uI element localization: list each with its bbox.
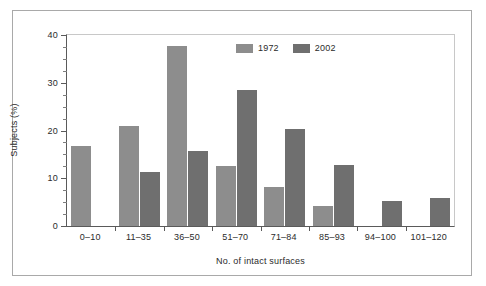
y-axis-tick-label: 20 — [47, 126, 58, 136]
legend-item-2002[interactable]: 2002 — [293, 43, 336, 53]
y-axis-tick-minor — [63, 154, 67, 155]
legend-label-1972: 1972 — [258, 43, 279, 53]
x-axis-category-label: 85–93 — [319, 232, 345, 242]
y-axis-tick-label: 30 — [47, 78, 58, 88]
bar-2002-11-35[interactable] — [140, 172, 160, 226]
legend-swatch-1972 — [236, 44, 253, 53]
y-axis-tick-label: 40 — [47, 30, 58, 40]
x-axis-tick — [212, 226, 213, 231]
bar-2002-94-100[interactable] — [382, 201, 402, 226]
legend-item-1972[interactable]: 1972 — [236, 43, 279, 53]
y-axis-tick-minor — [63, 47, 67, 48]
x-axis-tick — [261, 226, 262, 231]
y-axis-tick-major — [61, 35, 67, 36]
x-axis-tick — [309, 226, 310, 231]
x-axis-tick — [357, 226, 358, 231]
bar-2002-51-70[interactable] — [237, 90, 257, 226]
y-axis-tick-minor — [63, 190, 67, 191]
x-axis-title: No. of intact surfaces — [66, 256, 455, 266]
x-axis-tick — [115, 226, 116, 231]
y-axis-tick-major — [61, 226, 67, 227]
x-axis-category-label: 36–50 — [174, 232, 200, 242]
y-axis-title: Subjects (%) — [9, 103, 19, 156]
y-axis-tick-minor — [63, 119, 67, 120]
y-axis-tick-major — [61, 131, 67, 132]
y-axis-tick-minor — [63, 214, 67, 215]
y-axis-tick-minor — [63, 166, 67, 167]
bar-2002-101-120[interactable] — [430, 198, 450, 226]
bar-1972-11-35[interactable] — [119, 126, 139, 226]
x-axis-tick — [164, 226, 165, 231]
bar-1972-85-93[interactable] — [313, 206, 333, 226]
y-axis-tick-minor — [63, 142, 67, 143]
bar-1972-51-70[interactable] — [216, 166, 236, 226]
bar-2002-71-84[interactable] — [285, 129, 305, 226]
x-axis-category-label: 101–120 — [411, 232, 447, 242]
y-axis-tick-minor — [63, 71, 67, 72]
legend: 1972 2002 — [236, 43, 336, 53]
x-axis-category-label: 94–100 — [365, 232, 396, 242]
y-axis-tick-minor — [63, 59, 67, 60]
plot-area: 010203040 — [66, 34, 455, 227]
figure-container: Subjects (%) No. of intact surfaces 0102… — [0, 0, 486, 286]
x-axis-category-label: 71–84 — [271, 232, 297, 242]
x-axis-category-label: 51–70 — [222, 232, 248, 242]
legend-label-2002: 2002 — [315, 43, 336, 53]
legend-swatch-2002 — [293, 44, 310, 53]
y-axis-tick-label: 0 — [53, 221, 58, 231]
bar-1972-0-10[interactable] — [71, 146, 91, 226]
x-axis-tick — [406, 226, 407, 231]
bar-1972-36-50[interactable] — [167, 46, 187, 226]
y-axis-tick-major — [61, 83, 67, 84]
bar-2002-85-93[interactable] — [334, 165, 354, 226]
y-axis-tick-minor — [63, 202, 67, 203]
y-axis-tick-major — [61, 178, 67, 179]
y-axis-tick-minor — [63, 107, 67, 108]
y-axis-tick-label: 10 — [47, 173, 58, 183]
y-axis-tick-minor — [63, 95, 67, 96]
bar-1972-71-84[interactable] — [264, 187, 284, 226]
x-axis-category-label: 0–10 — [80, 232, 101, 242]
x-axis-category-label: 11–35 — [126, 232, 151, 242]
bar-2002-36-50[interactable] — [188, 151, 208, 226]
